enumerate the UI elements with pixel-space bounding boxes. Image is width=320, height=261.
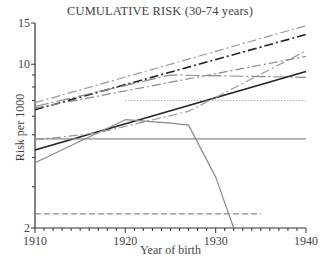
y-tick-label: 2 [24,221,30,235]
x-tick-label: 1910 [23,234,47,248]
x-tick-label: 1930 [204,234,228,248]
y-tick-label: 10 [18,57,30,71]
x-tick-label: 1920 [113,234,137,248]
chart-plot-area: 210151910192019301940 [0,0,320,261]
series-9-line [35,120,234,228]
y-tick-label: 15 [18,16,30,30]
x-tick-label: 1940 [294,234,318,248]
series-lines [35,26,306,228]
